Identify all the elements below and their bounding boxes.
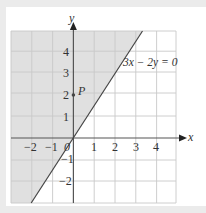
y-tick-label: −2 bbox=[59, 174, 72, 189]
x-tick-label: −1 bbox=[45, 140, 58, 155]
y-tick-label: 1 bbox=[63, 110, 69, 125]
line-equation-label: 3x − 2y = 0 bbox=[123, 56, 177, 68]
point-p-label: P bbox=[78, 84, 85, 99]
x-tick-label: 3 bbox=[133, 140, 139, 155]
y-tick-label: −1 bbox=[61, 152, 74, 167]
y-tick-label: 3 bbox=[63, 66, 69, 81]
y-axis-label: y bbox=[69, 11, 74, 26]
x-tick-label: 1 bbox=[91, 140, 97, 155]
x-tick-label: 2 bbox=[112, 140, 118, 155]
x-axis-label: x bbox=[188, 130, 193, 145]
y-tick-label: 4 bbox=[63, 45, 69, 60]
x-tick-label: −2 bbox=[24, 140, 37, 155]
x-tick-label: 4 bbox=[153, 140, 159, 155]
y-tick-label: 2 bbox=[63, 88, 69, 103]
